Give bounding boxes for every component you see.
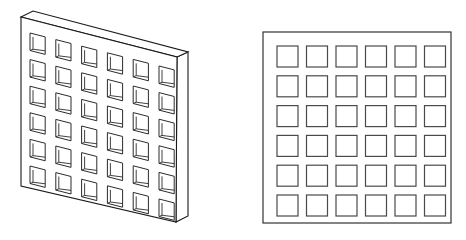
- figure-canvas: Perforated plate — isometric and front o…: [0, 0, 466, 240]
- hole-square: [425, 135, 446, 156]
- hole-square: [307, 106, 328, 127]
- hole-square: [425, 106, 446, 127]
- hole-square: [395, 46, 416, 67]
- hole-opening: [30, 86, 45, 107]
- hole-square: [277, 106, 298, 127]
- hole-square: [277, 76, 298, 97]
- hole-square: [336, 106, 357, 127]
- hole-opening: [56, 40, 71, 61]
- hole-opening: [30, 60, 45, 81]
- hole-square: [277, 195, 298, 216]
- slab-right-side-face: [176, 52, 188, 222]
- hole-opening: [107, 159, 122, 180]
- hole-opening: [82, 46, 97, 67]
- hole-square: [307, 135, 328, 156]
- hole-square: [366, 195, 387, 216]
- hole-opening: [56, 93, 71, 114]
- hole-opening: [56, 66, 71, 87]
- hole-opening: [107, 106, 122, 127]
- hole-square: [395, 106, 416, 127]
- hole-opening: [159, 172, 174, 193]
- hole-opening: [159, 146, 174, 167]
- hole-square: [307, 195, 328, 216]
- hole-square: [395, 76, 416, 97]
- hole-opening: [159, 66, 174, 87]
- hole-square: [336, 195, 357, 216]
- hole-opening: [56, 146, 71, 167]
- hole-square: [425, 165, 446, 186]
- hole-square: [307, 46, 328, 67]
- hole-opening: [30, 33, 45, 54]
- hole-square: [395, 165, 416, 186]
- hole-opening: [30, 166, 45, 187]
- hole-square: [336, 46, 357, 67]
- hole-opening: [159, 199, 174, 220]
- hole-square: [336, 165, 357, 186]
- hole-opening: [107, 53, 122, 74]
- isometric-plate-view: [21, 11, 188, 222]
- hole-square: [277, 46, 298, 67]
- hole-opening: [159, 93, 174, 114]
- hole-square: [425, 46, 446, 67]
- hole-square: [366, 106, 387, 127]
- hole-opening: [133, 86, 148, 107]
- hole-square: [336, 135, 357, 156]
- hole-square: [395, 135, 416, 156]
- hole-square: [425, 195, 446, 216]
- hole-square: [336, 76, 357, 97]
- hole-square: [366, 46, 387, 67]
- hole-opening: [159, 119, 174, 140]
- hole-square: [307, 76, 328, 97]
- hole-opening: [82, 126, 97, 147]
- hole-square: [366, 165, 387, 186]
- hole-opening: [56, 173, 71, 194]
- front-orthographic-plate-view: [263, 32, 451, 223]
- hole-square: [366, 135, 387, 156]
- hole-square: [395, 195, 416, 216]
- hole-opening: [82, 179, 97, 200]
- hole-opening: [133, 166, 148, 187]
- hole-opening: [30, 113, 45, 134]
- hole-opening: [133, 192, 148, 213]
- hole-opening: [82, 153, 97, 174]
- hole-opening: [133, 59, 148, 80]
- hole-opening: [133, 139, 148, 160]
- hole-opening: [107, 79, 122, 100]
- hole-square: [366, 76, 387, 97]
- hole-opening: [107, 133, 122, 154]
- hole-square: [277, 165, 298, 186]
- hole-square: [425, 76, 446, 97]
- hole-opening: [30, 139, 45, 160]
- hole-square: [307, 165, 328, 186]
- hole-opening: [82, 73, 97, 94]
- hole-opening: [56, 119, 71, 140]
- hole-opening: [82, 99, 97, 120]
- hole-opening: [133, 113, 148, 134]
- hole-opening: [107, 186, 122, 207]
- hole-square: [277, 135, 298, 156]
